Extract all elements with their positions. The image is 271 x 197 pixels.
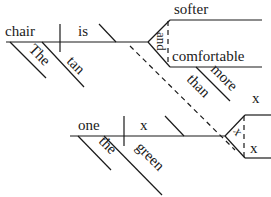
complement-divider (99, 24, 116, 42)
sub-complement-divider (165, 116, 184, 136)
word-conjunction-and: and (154, 32, 169, 51)
sub-fork-lower (225, 136, 245, 158)
word-connector-than: than (184, 71, 214, 101)
sub-word-modifier-green: green (133, 139, 168, 174)
word-modifier-the: The (26, 41, 54, 69)
sub-word-subject: one (78, 117, 100, 133)
word-verb: is (78, 23, 88, 39)
word-complement-softer: softer (174, 1, 208, 17)
sub-word-complement-2: x (250, 140, 258, 156)
word-subject: chair (5, 23, 35, 39)
sub-word-verb: x (140, 117, 148, 133)
word-elided-x: x (252, 90, 260, 106)
sentence-diagram: chair is The tan and softer comfortable … (0, 0, 271, 197)
word-complement-comfortable: comfortable (172, 48, 245, 64)
word-modifier-tan: tan (64, 53, 89, 78)
